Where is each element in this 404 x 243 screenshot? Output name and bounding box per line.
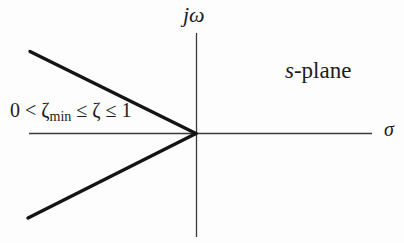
s-plane-label-rest: -plane bbox=[294, 58, 351, 83]
s-plane-diagram: jω σ s-plane 0 < ζmin ≤ ζ ≤ 1 bbox=[0, 0, 404, 243]
s-plane-label: s-plane bbox=[285, 59, 351, 82]
zeta-constraint-suffix: ≤ ζ ≤ 1 bbox=[71, 99, 131, 121]
lower-zeta-boundary-line bbox=[28, 134, 196, 219]
jw-axis-label: jω bbox=[183, 4, 205, 26]
s-plane-label-italic-s: s bbox=[285, 58, 294, 83]
zeta-constraint-prefix: 0 < ζ bbox=[10, 99, 50, 121]
zeta-constraint-label: 0 < ζmin ≤ ζ ≤ 1 bbox=[10, 100, 132, 120]
zeta-constraint-subscript: min bbox=[50, 109, 72, 124]
sigma-axis-label: σ bbox=[384, 119, 394, 139]
